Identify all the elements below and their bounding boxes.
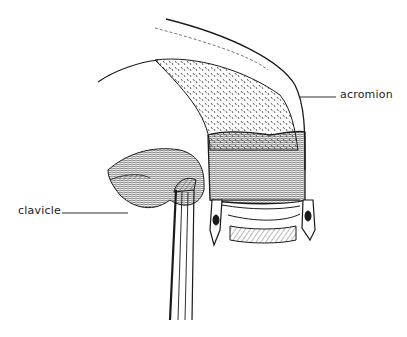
label-clavicle: clavicle xyxy=(18,204,61,217)
acromion-block xyxy=(208,131,305,203)
shoulder-outline xyxy=(98,60,158,82)
label-acromion: acromion xyxy=(340,88,393,101)
figure-canvas: acromion clavicle xyxy=(0,0,407,337)
shoulder-illustration xyxy=(0,0,407,337)
joint-capsule xyxy=(212,200,300,243)
